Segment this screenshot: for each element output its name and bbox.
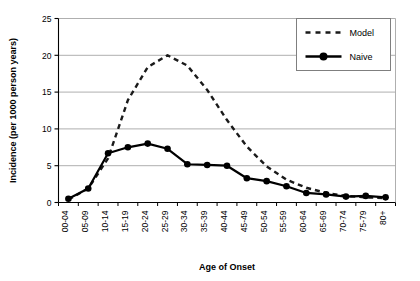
data-point xyxy=(283,183,290,190)
x-tick-label: 40-44 xyxy=(219,210,229,232)
data-point xyxy=(343,193,350,200)
legend-label-naive: Naive xyxy=(350,52,373,62)
data-point xyxy=(362,193,369,200)
data-point xyxy=(224,162,231,169)
data-point xyxy=(85,185,92,192)
data-point xyxy=(244,175,251,182)
x-tick-label: 70-74 xyxy=(338,210,348,232)
incidence-by-age-chart: 051015202500-0405-0910-1415-1920-2425-29… xyxy=(0,0,420,281)
x-tick-label: 35-39 xyxy=(199,210,209,232)
data-point xyxy=(303,190,310,197)
x-tick-label: 60-64 xyxy=(298,210,308,232)
x-tick-label: 05-09 xyxy=(80,210,90,232)
x-tick-label: 20-24 xyxy=(140,210,150,232)
data-point xyxy=(263,178,270,185)
y-axis-ticks: 0510152025 xyxy=(42,14,58,208)
series-naive xyxy=(65,140,389,202)
y-axis-title: Incidence (per 1000 person years) xyxy=(8,38,18,183)
x-tick-label: 25-29 xyxy=(160,210,170,232)
series-line xyxy=(68,55,385,199)
y-tick-label: 0 xyxy=(47,198,52,208)
y-tick-label: 15 xyxy=(42,87,52,97)
series-model xyxy=(68,55,385,199)
legend-marker-naive xyxy=(320,53,328,61)
x-axis-title: Age of Onset xyxy=(199,262,255,272)
x-tick-label: 10-14 xyxy=(100,210,110,232)
x-tick-label: 00-04 xyxy=(60,210,70,232)
x-tick-label: 50-54 xyxy=(259,210,269,232)
y-tick-label: 20 xyxy=(42,51,52,61)
data-point xyxy=(125,144,132,151)
series-line xyxy=(68,144,385,199)
x-tick-label: 15-19 xyxy=(120,210,130,232)
data-point xyxy=(323,191,330,198)
data-point xyxy=(105,150,112,157)
x-tick-label: 30-34 xyxy=(179,210,189,232)
y-tick-label: 5 xyxy=(47,161,52,171)
data-point xyxy=(382,194,389,201)
data-point xyxy=(184,161,191,168)
chart-canvas: 051015202500-0405-0910-1415-1920-2425-29… xyxy=(0,0,420,281)
y-tick-label: 10 xyxy=(42,124,52,134)
legend-box xyxy=(297,19,391,71)
x-tick-label: 80+ xyxy=(378,210,388,224)
y-tick-label: 25 xyxy=(42,14,52,24)
x-axis-ticks: 00-0405-0910-1415-1920-2425-2930-3435-39… xyxy=(59,203,396,233)
data-point xyxy=(65,196,72,203)
x-tick-label: 75-79 xyxy=(358,210,368,232)
data-point xyxy=(204,162,211,169)
data-point xyxy=(144,140,151,147)
x-tick-label: 45-49 xyxy=(239,210,249,232)
x-tick-label: 55-59 xyxy=(278,210,288,232)
x-tick-label: 65-69 xyxy=(318,210,328,232)
data-point xyxy=(164,145,171,152)
legend-label-model: Model xyxy=(350,28,375,38)
legend: ModelNaive xyxy=(297,19,391,71)
